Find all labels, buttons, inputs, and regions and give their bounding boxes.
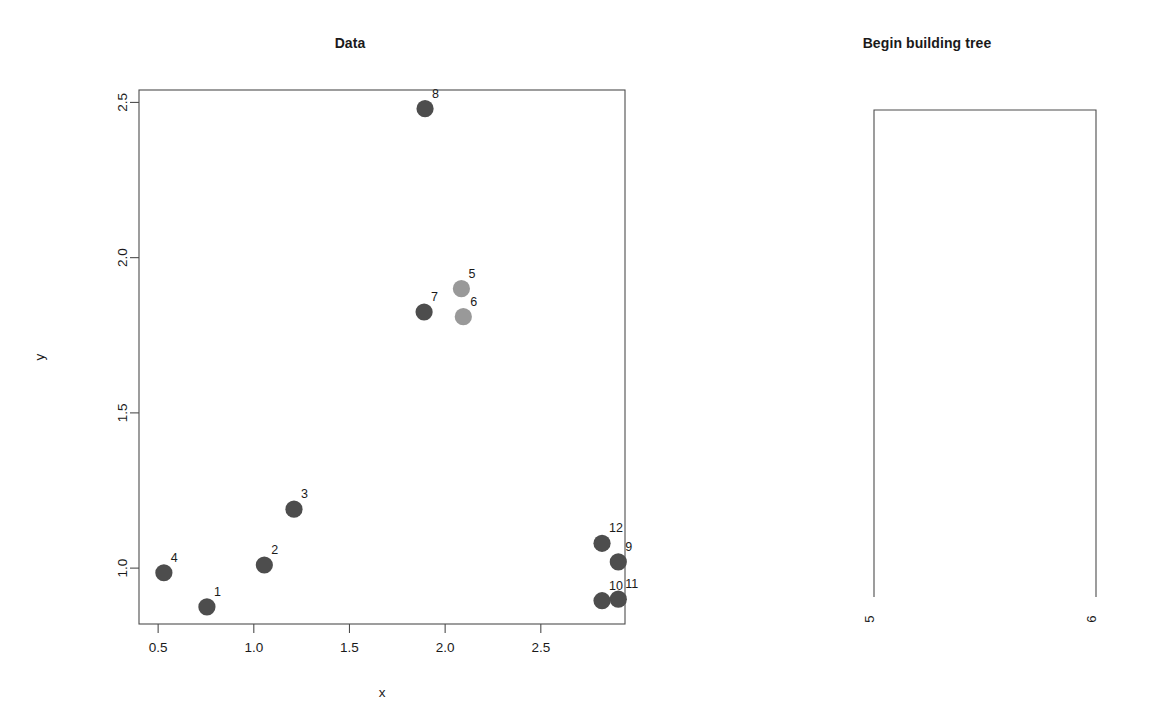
- data-point-label: 11: [625, 577, 638, 591]
- dendrogram-leaf-label: 5: [862, 615, 877, 622]
- y-tick-label: 1.0: [116, 559, 131, 578]
- data-point-label: 1: [214, 585, 221, 599]
- data-point-label: 9: [625, 540, 632, 554]
- x-tick-label: 1.0: [244, 640, 263, 655]
- x-tick-label: 2.0: [436, 640, 455, 655]
- scatter-panel: Data 0.51.01.52.02.5 1.01.52.02.5 123456…: [0, 0, 700, 723]
- data-point: [593, 535, 610, 552]
- data-point: [416, 100, 433, 117]
- data-point: [415, 303, 432, 320]
- data-point: [198, 598, 215, 615]
- data-point: [455, 308, 472, 325]
- data-point: [285, 501, 302, 518]
- x-axis: 0.51.01.52.02.5: [149, 624, 550, 655]
- data-point: [155, 564, 172, 581]
- data-point-label: 3: [301, 487, 308, 501]
- plot-frame: [139, 90, 625, 624]
- data-point: [453, 280, 470, 297]
- data-point: [610, 553, 627, 570]
- data-point: [256, 556, 273, 573]
- data-points: 123456789101112: [155, 87, 638, 616]
- data-point-label: 5: [468, 267, 475, 281]
- scatter-plot: 0.51.01.52.02.5 1.01.52.02.5 12345678910…: [0, 0, 700, 723]
- x-tick-label: 1.5: [340, 640, 359, 655]
- dendrogram-bracket: [874, 110, 1096, 597]
- y-axis-title: y: [32, 353, 47, 360]
- dendrogram-link: [874, 110, 1096, 597]
- data-point-label: 12: [609, 521, 623, 535]
- dendrogram-leaf-label: 6: [1084, 615, 1099, 622]
- y-tick-label: 2.5: [116, 93, 131, 112]
- dendrogram-plot: 56: [700, 0, 1154, 723]
- data-point-label: 10: [609, 579, 623, 593]
- y-axis: 1.01.52.02.5: [116, 93, 140, 577]
- x-tick-label: 2.5: [531, 640, 550, 655]
- data-point: [610, 591, 627, 608]
- data-point-label: 7: [431, 290, 438, 304]
- data-point-label: 2: [271, 543, 278, 557]
- data-point-label: 8: [432, 87, 439, 101]
- tree-panel: Begin building tree 56: [700, 0, 1154, 723]
- dendrogram-leaf-labels: 56: [862, 615, 1099, 622]
- y-tick-label: 2.0: [116, 248, 131, 267]
- y-tick-label: 1.5: [116, 403, 131, 422]
- data-point: [593, 592, 610, 609]
- plot-box: [139, 90, 625, 624]
- x-axis-title: x: [379, 685, 386, 700]
- data-point-label: 6: [470, 295, 477, 309]
- data-point-label: 4: [171, 551, 178, 565]
- x-tick-label: 0.5: [149, 640, 168, 655]
